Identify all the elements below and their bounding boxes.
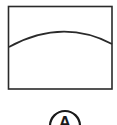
diagram-figure: A bbox=[0, 0, 117, 125]
diagram-canvas: A bbox=[0, 0, 117, 125]
arc-curve bbox=[9, 32, 112, 47]
label-badge: A bbox=[50, 111, 80, 125]
label-letter: A bbox=[59, 113, 71, 125]
frame-rectangle bbox=[9, 7, 113, 90]
